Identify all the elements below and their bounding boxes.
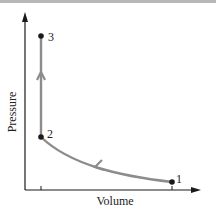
point-1 <box>169 179 175 185</box>
point-2-label: 2 <box>47 127 53 141</box>
x-axis <box>25 186 201 193</box>
process-1-2-curve <box>41 137 172 182</box>
point-1-label: 1 <box>176 172 182 186</box>
y-axis-arrow-icon <box>22 12 28 22</box>
point-3-label: 3 <box>48 30 54 44</box>
y-axis <box>22 12 28 190</box>
x-axis-arrow-icon <box>191 187 201 193</box>
process-1-2-arrow-icon <box>95 160 104 170</box>
y-axis-label: Pressure <box>5 92 19 133</box>
point-2 <box>38 134 44 140</box>
pv-diagram: 3 2 1 Volume Pressure <box>0 0 216 218</box>
point-3 <box>38 33 44 39</box>
x-axis-label: Volume <box>96 194 133 208</box>
